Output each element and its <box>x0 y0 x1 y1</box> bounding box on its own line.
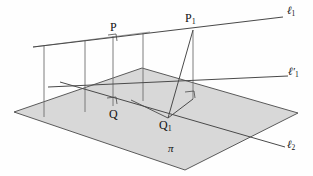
label-line-l2: ℓ2 <box>287 139 295 150</box>
label-point-P: P <box>110 21 117 33</box>
diagram-canvas <box>0 0 313 176</box>
label-point-Q: Q <box>109 108 118 120</box>
label-line-l1: ℓ1 <box>287 5 295 16</box>
label-line-l1-prime: ℓ′1 <box>288 66 299 77</box>
label-point-Q1: Q1 <box>159 119 172 131</box>
plane-pi-surface <box>14 68 298 170</box>
geometry-diagram: ℓ1 ℓ′1 ℓ2 π P P1 Q Q1 <box>0 0 313 176</box>
label-plane-pi: π <box>168 143 174 154</box>
line-l1 <box>33 17 283 47</box>
label-point-P1: P1 <box>185 12 196 24</box>
